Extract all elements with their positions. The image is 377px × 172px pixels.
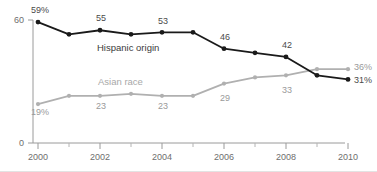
data-label-hispanic-2002: 55 xyxy=(96,13,106,23)
data-point xyxy=(222,46,227,51)
data-label-asian-2004: 23 xyxy=(158,101,168,111)
data-label-asian-2000: 19% xyxy=(31,107,49,117)
data-label-hispanic-2010: 31% xyxy=(354,75,372,85)
x-axis-label-2002: 2002 xyxy=(90,152,110,162)
data-point xyxy=(253,75,257,79)
data-point xyxy=(222,81,226,85)
x-axis-label-2010: 2010 xyxy=(338,152,358,162)
data-point xyxy=(253,50,258,55)
x-axis-label-2000: 2000 xyxy=(28,152,48,162)
data-point xyxy=(98,94,102,98)
data-point xyxy=(36,20,41,25)
line-chart: 60 0 2000 2002 2004 2006 2008 2010 Hispa… xyxy=(0,0,377,172)
data-label-hispanic-2006: 46 xyxy=(220,32,230,42)
data-point xyxy=(98,28,103,33)
data-point xyxy=(160,30,165,35)
data-label-asian-2002: 23 xyxy=(96,101,106,111)
data-point xyxy=(315,73,320,78)
series-points-asian-race xyxy=(36,67,350,106)
data-point xyxy=(315,67,319,71)
chart-axes xyxy=(28,20,348,149)
y-axis-label-60: 60 xyxy=(14,15,24,25)
data-point xyxy=(160,94,164,98)
y-axis-label-0: 0 xyxy=(19,138,24,148)
data-label-hispanic-2008: 42 xyxy=(282,40,292,50)
x-axis-label-2004: 2004 xyxy=(152,152,172,162)
x-axis-label-2006: 2006 xyxy=(214,152,234,162)
data-label-asian-2008: 33 xyxy=(282,85,292,95)
data-point xyxy=(191,30,196,35)
data-point xyxy=(36,102,40,106)
data-point xyxy=(346,77,351,82)
data-point xyxy=(129,32,134,37)
data-label-hispanic-2000: 59% xyxy=(31,5,49,15)
series-annotation-hispanic-origin: Hispanic origin xyxy=(97,42,159,53)
x-axis-label-2008: 2008 xyxy=(276,152,296,162)
data-point xyxy=(346,67,350,71)
data-point xyxy=(67,32,72,37)
series-line-asian-race xyxy=(38,69,348,104)
data-label-asian-2006: 29 xyxy=(220,93,230,103)
data-point xyxy=(284,73,288,77)
data-point xyxy=(67,94,71,98)
bottom-divider xyxy=(0,171,377,172)
data-label-asian-2010: 36% xyxy=(354,62,372,72)
data-point xyxy=(129,92,133,96)
data-point xyxy=(284,55,289,60)
series-annotation-asian-race: Asian race xyxy=(98,76,143,87)
data-point xyxy=(191,94,195,98)
data-label-hispanic-2004: 53 xyxy=(158,16,168,26)
